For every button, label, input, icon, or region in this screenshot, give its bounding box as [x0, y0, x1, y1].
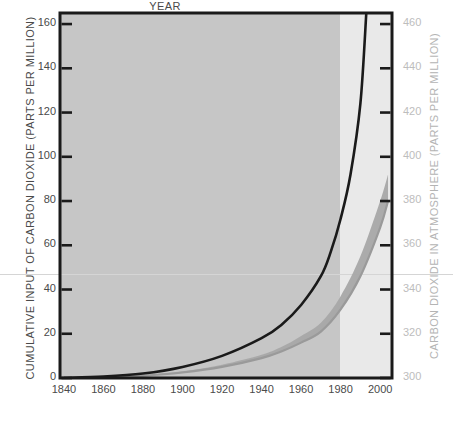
right-tick-460: 460 — [403, 16, 421, 28]
left-tick-80: 80 — [44, 193, 56, 205]
x-tick-1880: 1880 — [131, 383, 155, 395]
historical-region — [60, 13, 340, 378]
x-tick-1920: 1920 — [210, 383, 234, 395]
left-tick-140: 140 — [38, 60, 56, 72]
left-axis-title: CUMULATIVE INPUT OF CARBON DIOXIDE (PART… — [24, 12, 36, 384]
left-tick-160: 160 — [38, 16, 56, 28]
right-tick-360: 360 — [403, 237, 421, 249]
x-tick-1840: 1840 — [52, 383, 76, 395]
left-tick-100: 100 — [38, 149, 56, 161]
right-tick-320: 320 — [403, 326, 421, 338]
x-tick-1860: 1860 — [91, 383, 115, 395]
left-tick-40: 40 — [44, 282, 56, 294]
left-tick-0: 0 — [50, 370, 56, 382]
left-tick-120: 120 — [38, 105, 56, 117]
x-tick-1900: 1900 — [170, 383, 194, 395]
right-tick-440: 440 — [403, 60, 421, 72]
x-tick-1940: 1940 — [249, 383, 273, 395]
chart-figure: CUMULATIVE INPUT OF CARBON DIOXIDE (PART… — [0, 0, 453, 426]
right-axis-title: CARBON DIOXIDE IN ATMOSPHERE (PARTS PER … — [428, 10, 440, 382]
right-tick-420: 420 — [403, 105, 421, 117]
x-tick-2000: 2000 — [368, 383, 392, 395]
x-tick-1960: 1960 — [289, 383, 313, 395]
chart-plot-area — [0, 0, 453, 426]
right-tick-300: 300 — [403, 370, 421, 382]
right-tick-380: 380 — [403, 193, 421, 205]
right-tick-340: 340 — [403, 282, 421, 294]
left-tick-20: 20 — [44, 326, 56, 338]
left-tick-60: 60 — [44, 237, 56, 249]
x-tick-1980: 1980 — [328, 383, 352, 395]
right-tick-400: 400 — [403, 149, 421, 161]
